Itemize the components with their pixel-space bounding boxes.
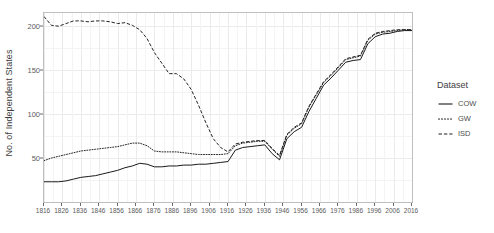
- legend-title: Dataset: [437, 80, 494, 90]
- y-tick-label: 50: [16, 154, 40, 163]
- x-tick-label: 1936: [257, 207, 271, 214]
- legend-item-isd[interactable]: ISD: [437, 126, 494, 141]
- x-tick-label: 1966: [312, 207, 326, 214]
- x-tick-label: 1856: [109, 207, 123, 214]
- x-tick-label: 1986: [349, 207, 363, 214]
- x-tick-label: 1916: [220, 207, 234, 214]
- legend: Dataset COWGWISD: [437, 80, 494, 141]
- x-tick-label: 1846: [91, 207, 105, 214]
- x-tick-mark: [356, 203, 357, 206]
- x-tick-label: 1886: [165, 207, 179, 214]
- gridline-major-vertical: [412, 13, 413, 202]
- x-tick-mark: [117, 203, 118, 206]
- x-tick-label: 1926: [238, 207, 252, 214]
- x-tick-label: 1976: [330, 207, 344, 214]
- x-tick-label: 1876: [146, 207, 160, 214]
- x-tick-mark: [43, 203, 44, 206]
- x-tick-label: 2006: [385, 207, 399, 214]
- x-axis-tick-labels: 1816182618361846185618661876188618961906…: [43, 207, 413, 219]
- series-layer: [44, 13, 412, 202]
- x-tick-mark: [301, 203, 302, 206]
- x-tick-mark: [319, 203, 320, 206]
- x-tick-label: 1866: [128, 207, 142, 214]
- y-tick-label: 150: [16, 66, 40, 75]
- y-tick-mark: [40, 114, 43, 115]
- x-tick-mark: [190, 203, 191, 206]
- x-tick-mark: [264, 203, 265, 206]
- x-tick-mark: [337, 203, 338, 206]
- y-tick-mark: [40, 26, 43, 27]
- plot-panel: [43, 12, 413, 203]
- x-tick-label: 2016: [404, 207, 418, 214]
- series-line-cow: [44, 31, 412, 182]
- series-line-gw: [44, 30, 412, 161]
- legend-items: COWGWISD: [437, 96, 494, 141]
- series-line-isd: [44, 17, 412, 156]
- x-tick-mark: [61, 203, 62, 206]
- x-tick-mark: [282, 203, 283, 206]
- legend-item-gw[interactable]: GW: [437, 111, 494, 126]
- x-tick-label: 1946: [275, 207, 289, 214]
- x-tick-mark: [153, 203, 154, 206]
- x-tick-label: 1826: [54, 207, 68, 214]
- chart-figure: No. of Independent States 50100150200 18…: [0, 0, 494, 233]
- x-tick-mark: [393, 203, 394, 206]
- x-tick-label: 1956: [293, 207, 307, 214]
- x-tick-label: 1996: [367, 207, 381, 214]
- x-tick-mark: [209, 203, 210, 206]
- legend-label: COW: [454, 99, 476, 108]
- x-tick-label: 1836: [73, 207, 87, 214]
- x-tick-mark: [411, 203, 412, 206]
- y-tick-label: 200: [16, 22, 40, 31]
- x-tick-mark: [374, 203, 375, 206]
- x-tick-label: 1816: [36, 207, 50, 214]
- x-tick-label: 1896: [183, 207, 197, 214]
- x-tick-mark: [227, 203, 228, 206]
- x-tick-mark: [80, 203, 81, 206]
- legend-item-cow[interactable]: COW: [437, 96, 494, 111]
- y-axis-title-text: No. of Independent States: [4, 49, 14, 156]
- legend-label: ISD: [454, 129, 471, 138]
- x-tick-mark: [98, 203, 99, 206]
- y-axis-tick-labels: 50100150200: [14, 0, 40, 233]
- y-tick-label: 100: [16, 110, 40, 119]
- y-tick-mark: [40, 158, 43, 159]
- x-tick-mark: [172, 203, 173, 206]
- legend-key-dotted-icon: [437, 113, 454, 125]
- x-tick-mark: [245, 203, 246, 206]
- legend-key-solid-icon: [437, 98, 454, 110]
- legend-key-dashed-icon: [437, 128, 454, 140]
- legend-label: GW: [454, 114, 471, 123]
- x-tick-label: 1906: [201, 207, 215, 214]
- y-tick-mark: [40, 70, 43, 71]
- x-tick-mark: [135, 203, 136, 206]
